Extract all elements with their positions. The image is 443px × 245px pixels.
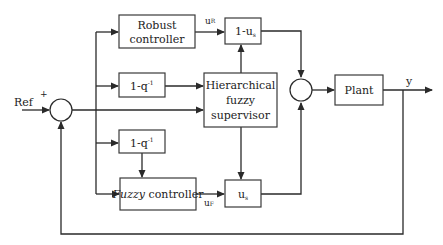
one-minus-us-to-junction-wire: [261, 31, 301, 77]
one-minus-us-label: 1-us: [235, 25, 256, 38]
plant-label: Plant: [345, 84, 375, 97]
supervisor-label-line3: supervisor: [211, 109, 271, 122]
output-summing-junction: [290, 79, 312, 101]
fuzzy-controller-block: Fuzzy controller: [111, 178, 204, 210]
hierarchical-fuzzy-supervisor-block: Hierarchical fuzzy supervisor: [204, 73, 277, 127]
plant-block: Plant: [335, 75, 383, 105]
supervisor-label-line2: fuzzy: [226, 94, 256, 107]
ref-label: Ref: [14, 96, 34, 109]
fuzzy-controller-label: Fuzzy controller: [111, 188, 204, 201]
robust-controller-label-line1: Robust: [137, 19, 177, 32]
control-block-diagram: Robust controller 1-us 1-q-1 Hierarchica…: [0, 0, 443, 245]
diff-bottom-block: 1-q-1: [119, 130, 165, 153]
diff-top-block: 1-q-1: [119, 73, 165, 97]
robust-controller-block: Robust controller: [119, 15, 195, 48]
plus-sign: +: [40, 89, 48, 99]
one-minus-us-block: 1-us: [225, 18, 261, 44]
error-summing-junction: [50, 99, 72, 121]
uR-label: uR: [205, 16, 216, 26]
robust-controller-label-line2: controller: [130, 33, 186, 46]
us-block: us: [225, 180, 261, 207]
y-output-label: y: [405, 75, 413, 88]
supervisor-label-line1: Hierarchical: [206, 79, 276, 92]
uF-label: uF: [204, 198, 214, 208]
